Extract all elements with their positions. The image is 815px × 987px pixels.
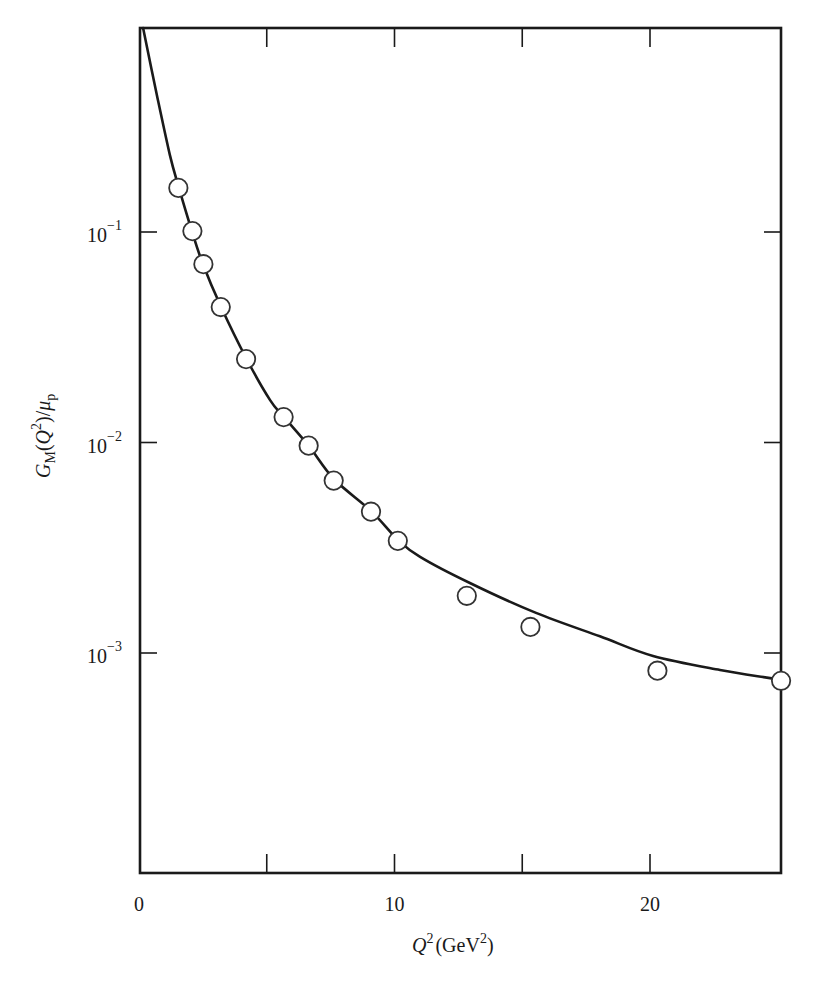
- data-point-marker: [194, 255, 212, 273]
- data-point-marker: [521, 618, 539, 636]
- data-point-marker: [274, 408, 292, 426]
- data-point-marker: [299, 436, 317, 454]
- axes-box: [140, 28, 781, 873]
- x-tick-label: 20: [640, 893, 660, 915]
- x-tick-label: 0: [134, 893, 144, 915]
- data-point-marker: [362, 503, 380, 521]
- x-tick-label: 10: [385, 893, 405, 915]
- y-tick-label: 10−2: [87, 429, 122, 457]
- y-axis-title: GM(Q2)/μp: [29, 394, 58, 478]
- plot-frame: [140, 28, 781, 873]
- data-point-marker: [237, 350, 255, 368]
- data-point-marker: [324, 471, 342, 489]
- x-axis-ticks: 01020: [134, 28, 660, 915]
- data-point-marker: [169, 179, 187, 197]
- data-point-marker: [648, 661, 666, 679]
- data-point-marker: [772, 672, 790, 690]
- data-point-marker: [183, 222, 201, 240]
- y-tick-label: 10−1: [87, 218, 122, 246]
- data-point-marker: [212, 298, 230, 316]
- data-point-marker: [458, 587, 476, 605]
- data-point-marker: [389, 532, 407, 550]
- x-axis-title: Q2(GeV2): [412, 931, 494, 957]
- data-points: [169, 179, 790, 690]
- form-factor-chart: 01020 10−110−210−3 Q2(GeV2) GM(Q2)/μp: [0, 0, 815, 987]
- y-axis-ticks: 10−110−210−3: [87, 218, 781, 667]
- y-tick-label: 10−3: [87, 639, 122, 667]
